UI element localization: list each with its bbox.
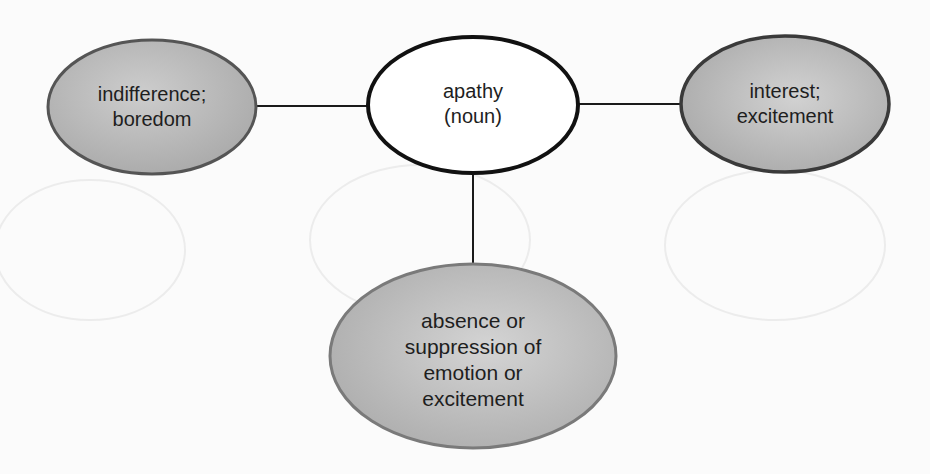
definition-line-4: excitement [422,386,524,412]
definition-line-3: emotion or [423,360,522,386]
antonym-line-2: excitement [737,104,834,129]
word-line-1: apathy [443,79,503,104]
synonym-line-1: indifference; [98,82,207,107]
synonym-line-2: boredom [113,107,192,132]
definition-line-2: suppression of [405,334,542,360]
word-line-2: (noun) [444,104,502,129]
synonym-label: indifference; boredom [52,67,252,147]
word-label: apathy (noun) [373,64,573,144]
definition-line-1: absence or [421,308,525,334]
definition-label: absence or suppression of emotion or exc… [353,300,593,420]
antonym-line-1: interest; [749,79,820,104]
antonym-label: interest; excitement [685,64,885,144]
